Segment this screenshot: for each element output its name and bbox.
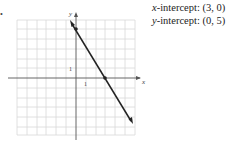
x-intercept-point: [103, 76, 107, 80]
y-axis-arrow-icon: [74, 12, 78, 17]
x-intercept-line: x-intercept: (3, 0): [152, 1, 225, 14]
coordinate-graph: x y 1 1: [0, 0, 150, 141]
x-axis-label: x: [141, 78, 146, 86]
y-unit-tick-label: 1: [69, 66, 72, 72]
x-axis-arrow-icon: [136, 76, 141, 80]
y-intercept-point: [74, 27, 78, 31]
x-unit-tick-label: 1: [84, 81, 87, 87]
y-intercept-line: y-intercept: (0, 5): [152, 14, 225, 27]
y-axis-label: y: [68, 10, 73, 18]
intercepts-text: x-intercept: (3, 0) y-intercept: (0, 5): [152, 1, 225, 27]
line-arrow-top-icon: [70, 20, 75, 27]
graphed-line: [72, 24, 131, 121]
axes: [8, 14, 140, 140]
